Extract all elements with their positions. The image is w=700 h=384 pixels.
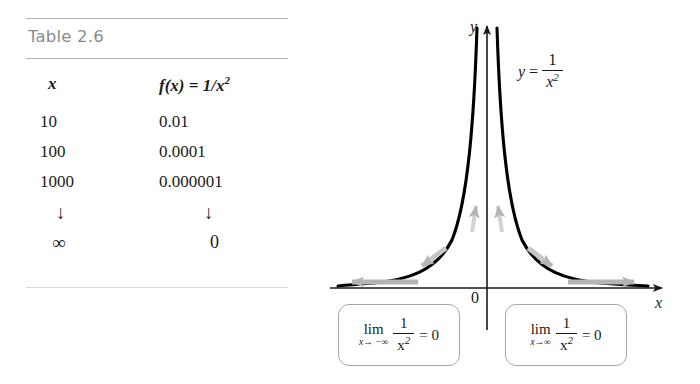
limit-numerator: 1	[396, 316, 412, 332]
column-header-fx: f(x) = 1/x2	[159, 74, 230, 96]
curve-equation-numerator: 1	[544, 52, 560, 69]
limit-fraction-left: 1 x2	[393, 316, 414, 354]
limit-callout-left: lim x→ −∞ 1 x2 = 0	[338, 304, 460, 366]
fraction-bar	[393, 333, 414, 334]
denominator-exponent: 2	[567, 334, 573, 346]
limit-subscript: x→ −∞	[359, 338, 388, 348]
down-arrow-icon: ↓	[56, 202, 66, 224]
cell-x: 100	[40, 142, 66, 162]
limit-result-right: = 0	[582, 327, 602, 344]
table-bottom-rule	[26, 287, 288, 288]
table-header-rule	[26, 58, 288, 59]
limit-expression-right: lim x→∞ 1 x2 = 0	[530, 316, 601, 354]
cell-fx: 0.0001	[159, 142, 206, 162]
table-row-arrows: ↓ ↓	[26, 202, 288, 232]
motion-arrow-curve-up-left	[472, 206, 476, 232]
curve-equation-fraction: 1 x2	[542, 52, 563, 91]
table-caption: Table 2.6	[28, 27, 104, 46]
curve-equation-denominator: x2	[542, 72, 563, 91]
curve-equation-label: y = 1 x2	[518, 52, 563, 91]
limit-subscript: x→∞	[530, 338, 551, 348]
down-arrow-icon: ↓	[204, 202, 214, 224]
limit-numerator: 1	[559, 316, 575, 332]
limit-word: lim	[364, 322, 384, 337]
limit-fraction-right: 1 x2	[556, 316, 577, 354]
cell-x-infinity: ∞	[52, 232, 66, 254]
table-row-limit: ∞ 0	[26, 232, 288, 262]
cell-fx-zero: 0	[210, 232, 219, 253]
cell-fx: 0.01	[159, 112, 189, 132]
column-header-fx-exponent: 2	[224, 74, 230, 86]
table-2-6-panel: Table 2.6 x f(x) = 1/x2 10 0.01 100 0.00…	[26, 14, 288, 292]
limit-denominator: x2	[393, 335, 414, 354]
table-top-rule	[26, 18, 288, 19]
table-row: 100 0.0001	[26, 142, 288, 172]
column-header-x: x	[48, 74, 57, 94]
cell-x: 1000	[40, 172, 74, 192]
graph-panel: y x 0 y = 1 x2 lim x→ −∞ 1 x2 = 0	[300, 0, 700, 384]
table-body: 10 0.01 100 0.0001 1000 0.000001 ↓ ↓ ∞ 0	[26, 112, 288, 262]
limit-operator-left: lim x→ −∞	[359, 322, 388, 348]
y-axis-label: y	[470, 18, 477, 36]
curve-left-branch	[338, 28, 477, 286]
limit-operator-right: lim x→∞	[530, 322, 551, 348]
denominator-base: x	[397, 337, 405, 353]
limit-callout-right: lim x→∞ 1 x2 = 0	[505, 304, 627, 366]
limit-denominator: x2	[556, 335, 577, 354]
x-axis-label: x	[655, 294, 662, 312]
curve-equation-lhs: y	[518, 63, 525, 81]
column-header-x-text: x	[48, 74, 57, 93]
denominator-exponent: 2	[553, 71, 559, 83]
limit-result-left: = 0	[419, 327, 439, 344]
origin-label: 0	[471, 289, 479, 307]
limit-expression-left: lim x→ −∞ 1 x2 = 0	[359, 316, 439, 354]
motion-arrow-curve-up-right	[498, 206, 502, 232]
cell-fx: 0.000001	[159, 172, 223, 192]
column-header-fx-text: f(x) = 1/x	[159, 76, 224, 95]
table-row: 1000 0.000001	[26, 172, 288, 202]
curve-equation-equals: =	[529, 63, 538, 81]
table-header-row: x f(x) = 1/x2	[26, 74, 288, 102]
cell-x: 10	[40, 112, 57, 132]
denominator-exponent: 2	[405, 334, 411, 346]
table-row: 10 0.01	[26, 112, 288, 142]
limit-word: lim	[531, 322, 551, 337]
